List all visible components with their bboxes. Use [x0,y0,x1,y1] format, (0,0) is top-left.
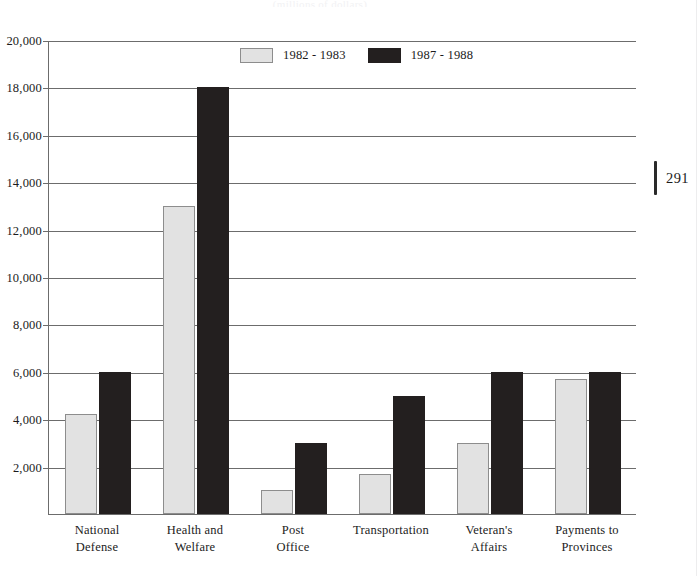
y-axis-tick-label: 8,000 [13,318,42,333]
y-axis-tick-label: 14,000 [6,176,42,191]
y-axis-tick-label: 10,000 [6,271,42,286]
chart-legend: 1982 - 19831987 - 1988 [240,48,473,63]
y-axis-tick-label: 18,000 [6,81,42,96]
bar [555,379,587,514]
y-axis-tick-label: 12,000 [6,223,42,238]
x-axis-label-line: Provinces [520,539,654,556]
bar [359,474,391,514]
bar [491,372,523,514]
y-axis-tick-label: 16,000 [6,128,42,143]
bar [589,372,621,514]
x-axis-labels: NationalDefenseHealth andWelfarePostOffi… [48,522,636,566]
bar-chart: 20,00018,00016,00014,00012,00010,0008,00… [0,0,660,576]
x-axis-label-line: Office [226,539,360,556]
bar [261,490,293,514]
bar [295,443,327,514]
plot-area: 20,00018,00016,00014,00012,00010,0008,00… [48,41,636,515]
y-axis-tick-label: 6,000 [13,365,42,380]
bar [99,372,131,514]
x-axis-label: Payments toProvinces [520,522,654,555]
legend-item: 1987 - 1988 [368,48,474,63]
bar [163,206,195,514]
legend-label: 1982 - 1983 [283,48,346,63]
page-number: 291 [666,170,689,187]
bar [65,414,97,514]
bar [197,87,229,514]
x-axis-label-line: Payments to [520,522,654,539]
figure-container: (millions of dollars) 291 20,00018,00016… [0,0,697,576]
bar [457,443,489,514]
legend-item: 1982 - 1983 [240,48,346,63]
legend-swatch-icon [240,48,273,63]
y-axis-tick-label: 4,000 [13,413,42,428]
y-axis-tick-label: 20,000 [6,34,42,49]
legend-swatch-icon [368,48,401,63]
bar [393,396,425,515]
y-axis-tick-label: 2,000 [13,460,42,475]
legend-label: 1987 - 1988 [411,48,474,63]
bars-layer [49,41,636,514]
